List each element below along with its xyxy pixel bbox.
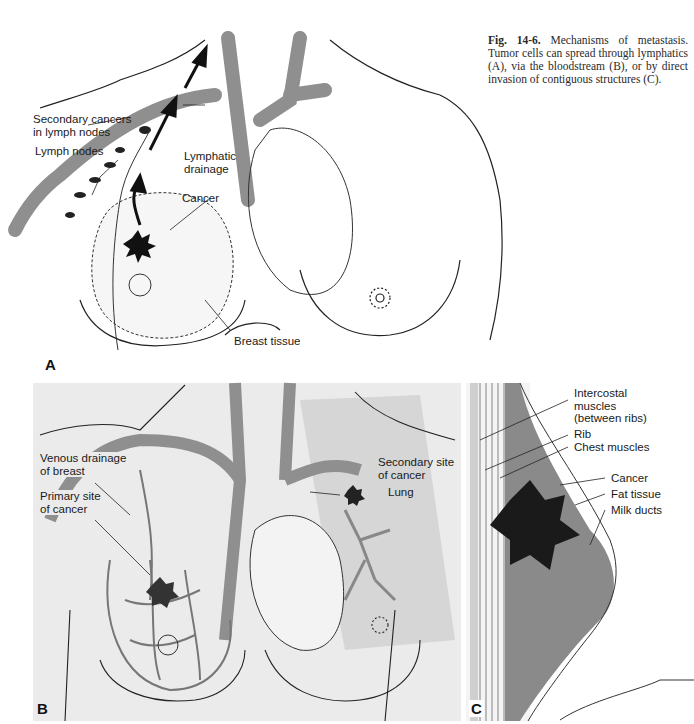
label-fat-tissue: Fat tissue [611, 488, 661, 501]
label-breast-tissue: Breast tissue [234, 335, 300, 348]
label-rib: Rib [574, 428, 591, 441]
panel-a-letter: A [45, 356, 56, 373]
label-lymphatic-drainage: Lymphatic drainage [184, 150, 236, 175]
label-secondary-cancers-lymph: Secondary cancers in lymph nodes [33, 113, 131, 138]
panel-b-letter: B [37, 700, 48, 717]
panel-a-illustration [0, 0, 694, 724]
label-milk-ducts: Milk ducts [611, 504, 662, 517]
label-primary-site: Primary site of cancer [40, 490, 101, 515]
label-secondary-site: Secondary site of cancer [378, 456, 454, 481]
panel-c-letter: C [469, 700, 484, 717]
label-cancer-a: Cancer [182, 192, 219, 205]
label-lymph-nodes: Lymph nodes [35, 145, 104, 158]
label-cancer-c: Cancer [611, 472, 648, 485]
label-venous-drainage: Venous drainage of breast [40, 452, 126, 477]
label-intercostal-muscles: Intercostal muscles (between ribs) [574, 387, 647, 425]
label-lung: Lung [388, 486, 414, 499]
label-chest-muscles: Chest muscles [574, 441, 649, 454]
